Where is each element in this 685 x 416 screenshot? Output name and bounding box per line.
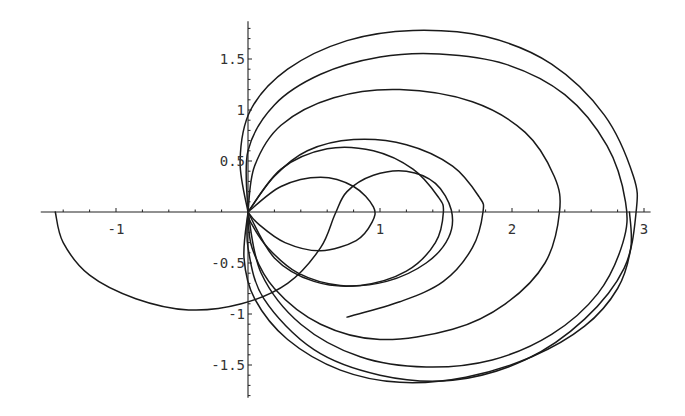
x-tick-label: 1 — [376, 221, 384, 237]
polar-plot-chart: -1123 1.510.5-0.5-1-1.5 — [0, 0, 685, 416]
y-tick-label: 0.5 — [220, 153, 245, 169]
y-tick-label: -0.5 — [211, 255, 245, 271]
x-tick-label: 2 — [508, 221, 516, 237]
curve-4 — [248, 139, 484, 317]
x-tick-label: -1 — [108, 221, 125, 237]
curve-7 — [55, 171, 452, 310]
x-tick-label: 3 — [640, 221, 648, 237]
y-tick-label: -1 — [228, 306, 245, 322]
y-tick-label: -1.5 — [211, 357, 245, 373]
y-tick-label: 1 — [237, 102, 245, 118]
curve-5 — [248, 147, 443, 286]
curve-3 — [248, 89, 560, 339]
curves-layer — [55, 30, 637, 382]
curve-2 — [246, 53, 627, 367]
plot-area: -1123 1.510.5-0.5-1-1.5 — [0, 0, 685, 416]
curve-6 — [248, 177, 375, 251]
y-tick-label: 1.5 — [220, 51, 245, 67]
curve-1 — [240, 30, 637, 381]
